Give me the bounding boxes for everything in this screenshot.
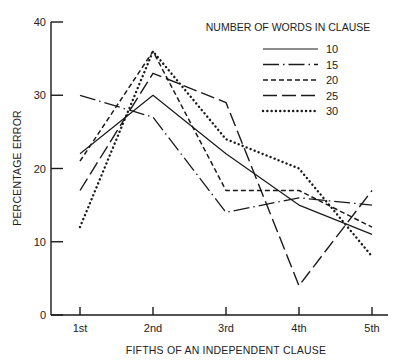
- legend-items: 1015202530: [263, 43, 338, 117]
- x-tick-label: 5th: [364, 322, 379, 334]
- legend-label-15: 15: [326, 59, 338, 71]
- x-tick-label: 1st: [73, 322, 88, 334]
- legend-label-25: 25: [326, 90, 338, 102]
- y-axis-title: PERCENTAGE ERROR: [11, 110, 23, 226]
- y-tick-label: 10: [34, 236, 46, 248]
- y-tick-label: 30: [34, 89, 46, 101]
- legend-label-30: 30: [326, 105, 338, 117]
- legend-label-20: 20: [326, 74, 338, 86]
- y-tick-label: 40: [34, 16, 46, 28]
- y-axis: 010203040: [34, 16, 63, 321]
- data-series-group: [80, 51, 372, 285]
- legend-label-10: 10: [326, 43, 338, 55]
- x-tick-label: 4th: [291, 322, 306, 334]
- y-tick-label: 0: [40, 309, 46, 321]
- legend-title: NUMBER OF WORDS IN CLAUSE: [206, 21, 371, 33]
- x-tick-label: 2nd: [144, 322, 162, 334]
- line-chart: 010203040 1st2nd3rd4th5th PERCENTAGE ERR…: [0, 0, 398, 362]
- legend: NUMBER OF WORDS IN CLAUSE 1015202530: [206, 21, 371, 117]
- x-tick-label: 3rd: [218, 322, 234, 334]
- x-axis: 1st2nd3rd4th5th: [51, 307, 388, 334]
- x-axis-title: FIFTHS OF AN INDEPENDENT CLAUSE: [126, 344, 326, 356]
- y-tick-label: 20: [34, 163, 46, 175]
